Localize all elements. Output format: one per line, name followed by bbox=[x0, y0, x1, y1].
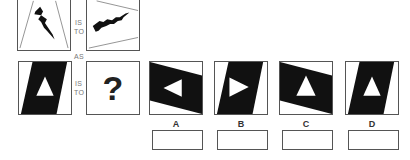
premise-figure-2 bbox=[86, 0, 140, 51]
rotated-parallelogram-left-triangle-icon bbox=[150, 62, 202, 114]
connector-is: IS bbox=[75, 19, 82, 27]
parallelogram-right-triangle-icon bbox=[215, 62, 267, 114]
option-b-figure[interactable] bbox=[214, 61, 268, 115]
query-figure bbox=[18, 61, 72, 115]
option-b-answer-input[interactable] bbox=[217, 130, 268, 150]
option-c-label: C bbox=[279, 119, 333, 129]
lightning-bolt-rotated-icon bbox=[87, 0, 139, 50]
option-d-figure[interactable] bbox=[345, 61, 399, 115]
option-a-figure[interactable] bbox=[149, 61, 203, 115]
option-a-label: A bbox=[149, 119, 203, 129]
lightning-bolt-trapezoid-icon bbox=[18, 0, 70, 50]
option-d-answer-input[interactable] bbox=[348, 130, 399, 150]
connector-is-2: IS bbox=[75, 80, 82, 88]
connector-to-2: TO bbox=[74, 89, 84, 97]
option-c-figure[interactable] bbox=[279, 61, 333, 115]
option-c-answer-input[interactable] bbox=[282, 130, 333, 150]
parallelogram-up-triangle-icon bbox=[346, 62, 398, 114]
unknown-figure: ? bbox=[86, 61, 140, 115]
option-d-label: D bbox=[345, 119, 399, 129]
rotated-parallelogram-up-triangle-icon bbox=[280, 62, 332, 114]
premise-figure-1 bbox=[17, 0, 71, 51]
connector-as: AS bbox=[74, 53, 84, 61]
option-b-label: B bbox=[214, 119, 268, 129]
parallelogram-up-triangle-icon bbox=[19, 62, 71, 114]
question-mark: ? bbox=[87, 62, 139, 114]
option-a-answer-input[interactable] bbox=[152, 130, 203, 150]
connector-to: TO bbox=[74, 28, 84, 36]
